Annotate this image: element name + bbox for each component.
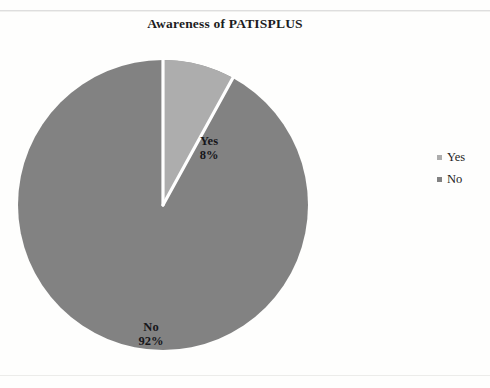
chart-legend: Yes No (437, 146, 489, 190)
scan-artifact-line-top (0, 10, 490, 11)
legend-swatch-yes-icon (437, 155, 442, 160)
legend-label-no: No (447, 173, 462, 186)
chart-title: Awareness of PATISPLUS (0, 16, 450, 32)
pie-graphic (8, 48, 328, 368)
scan-artifact-line-top-2 (0, 11, 490, 12)
plot-area: Yes 8% No 92% (8, 48, 328, 368)
scan-artifact-line-bottom (0, 375, 490, 376)
legend-swatch-no-icon (437, 177, 442, 182)
pie-chart-figure: Awareness of PATISPLUS Yes 8% No 92% Yes (0, 0, 490, 388)
legend-item-yes[interactable]: Yes (437, 146, 489, 168)
legend-label-yes: Yes (447, 151, 465, 164)
legend-item-no[interactable]: No (437, 168, 489, 190)
